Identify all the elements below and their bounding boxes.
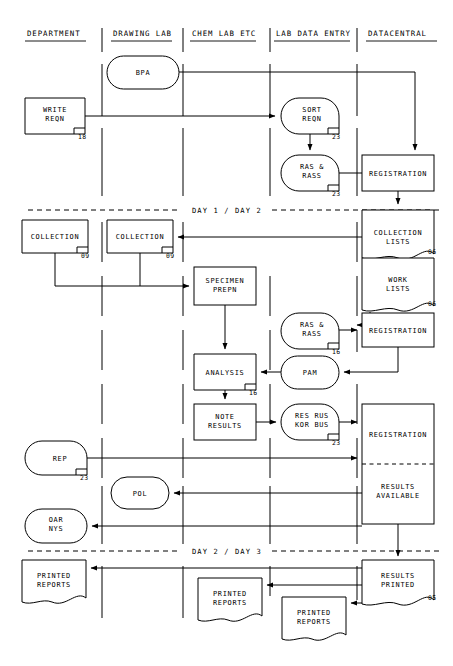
node-printed-reports-1[interactable]: PRINTED REPORTS: [22, 560, 86, 603]
node-specimen-prepn[interactable]: SPECIMEN PREPN: [194, 267, 256, 305]
node-collection-draw[interactable]: COLLECTION 09: [107, 220, 175, 260]
node-label-results-available-1: RESULTS: [381, 483, 415, 491]
node-number-collection-dept: 09: [81, 252, 90, 260]
node-label-sort-reqn-1: SORT: [302, 106, 321, 114]
node-label-collection-lists-1: COLLECTION: [374, 229, 423, 237]
connector-registration-2-to-pam: [344, 347, 398, 372]
node-label-sort-reqn-2: REQN: [302, 115, 321, 123]
node-label-ras-rass-2a: RAS &: [300, 321, 324, 329]
node-res-rus-kor-bus[interactable]: RES RUS KOR BUS 23: [281, 404, 341, 447]
node-number-res-rus: 23: [332, 439, 341, 447]
node-number-collection-lists: 06: [428, 248, 437, 256]
node-collection-lists[interactable]: COLLECTION LISTS 06: [362, 210, 437, 259]
node-label-bpa: BPA: [136, 69, 151, 77]
node-number-ras-rass-1: 23: [332, 190, 341, 198]
node-analysis[interactable]: ANALYSIS 16: [194, 354, 258, 397]
node-label-specimen-prepn-2: PREPN: [213, 286, 237, 294]
node-note-results[interactable]: NOTE RESULTS: [194, 404, 256, 440]
node-label-write-reqn-1: WRITE: [43, 106, 67, 114]
node-work-lists[interactable]: WORK LISTS 06: [362, 258, 437, 311]
node-sort-reqn[interactable]: SORT REQN 23: [281, 98, 341, 141]
node-oar-nys[interactable]: OAR NYS: [25, 509, 87, 543]
node-bpa[interactable]: BPA: [107, 56, 179, 89]
phase-divider-day2-day3: DAY 2 / DAY 3: [28, 547, 443, 556]
lane-title-chem-lab: CHEM LAB ETC: [192, 29, 256, 38]
lane-title-datacentral: DATACENTRAL: [368, 29, 427, 38]
node-results-printed[interactable]: RESULTS PRINTED 05: [362, 560, 437, 605]
node-number-collection-draw: 09: [166, 252, 175, 260]
node-label-registration-2: REGISTRATION: [369, 327, 427, 335]
node-label-note-results-2: RESULTS: [208, 422, 242, 430]
node-rep[interactable]: REP 23: [25, 441, 89, 482]
node-pam[interactable]: PAM: [281, 356, 339, 389]
node-number-sort-reqn: 23: [332, 133, 341, 141]
node-label-oar-nys-1: OAR: [49, 516, 64, 524]
node-label-registration-1: REGISTRATION: [369, 170, 427, 178]
node-label-write-reqn-2: REQN: [45, 115, 64, 123]
node-printed-reports-2[interactable]: PRINTED REPORTS: [198, 578, 262, 621]
node-label-ras-rass-2b: RASS: [302, 330, 321, 338]
lane-header-datacentral: DATACENTRAL: [366, 29, 437, 41]
lane-header-lab-data-entry: LAB DATA ENTRY: [274, 29, 351, 41]
node-label-printed-reports-1b: REPORTS: [37, 581, 71, 589]
node-label-printed-reports-2a: PRINTED: [213, 590, 247, 598]
node-label-rep: REP: [53, 455, 68, 463]
node-label-ras-rass-1a: RAS &: [300, 163, 324, 171]
node-number-write-reqn: 18: [78, 133, 87, 141]
lane-header-chem-lab: CHEM LAB ETC: [190, 29, 256, 41]
node-label-collection-lists-2: LISTS: [386, 238, 410, 246]
node-ras-rass-1[interactable]: RAS & RASS 23: [281, 155, 341, 198]
node-label-work-lists-2: LISTS: [386, 285, 410, 293]
node-label-results-printed-1: RESULTS: [381, 572, 415, 580]
node-label-analysis: ANALYSIS: [206, 369, 245, 377]
node-number-rep: 23: [80, 474, 89, 482]
node-number-analysis: 16: [249, 389, 258, 397]
node-registration-1[interactable]: REGISTRATION: [362, 155, 434, 191]
node-label-ras-rass-1b: RASS: [302, 172, 321, 180]
node-label-results-available-2: AVAILABLE: [376, 492, 420, 500]
node-number-ras-rass-2: 16: [332, 348, 341, 356]
node-label-pam: PAM: [303, 369, 318, 377]
flowchart-canvas: DEPARTMENT DRAWING LAB CHEM LAB ETC LAB …: [0, 0, 453, 666]
node-label-res-rus-2: KOR BUS: [295, 421, 329, 429]
node-registration-2[interactable]: REGISTRATION: [362, 313, 434, 347]
lane-header-drawing-lab: DRAWING LAB: [111, 29, 172, 41]
node-label-note-results-1: NOTE: [215, 413, 234, 421]
lane-title-lab-data-entry: LAB DATA ENTRY: [276, 29, 351, 38]
node-label-registration-3: REGISTRATION: [369, 431, 427, 439]
node-label-oar-nys-2: NYS: [49, 525, 64, 533]
node-label-results-printed-2: PRINTED: [381, 581, 415, 589]
node-label-printed-reports-1a: PRINTED: [37, 572, 71, 580]
node-label-printed-reports-3b: REPORTS: [297, 618, 331, 626]
node-label-printed-reports-2b: REPORTS: [213, 599, 247, 607]
node-printed-reports-3[interactable]: PRINTED REPORTS: [282, 597, 346, 640]
node-pol[interactable]: POL: [111, 477, 169, 509]
node-label-specimen-prepn-1: SPECIMEN: [206, 277, 245, 285]
node-label-res-rus-1: RES RUS: [295, 412, 329, 420]
node-ras-rass-2[interactable]: RAS & RASS 16: [281, 313, 341, 356]
lane-header-department: DEPARTMENT: [25, 29, 86, 41]
node-write-reqn[interactable]: WRITE REQN 18: [25, 98, 87, 141]
node-label-work-lists-1: WORK: [388, 276, 408, 284]
lane-title-drawing-lab: DRAWING LAB: [113, 29, 172, 38]
node-registration-3[interactable]: REGISTRATION RESULTS AVAILABLE: [362, 404, 434, 524]
node-number-results-printed: 05: [428, 594, 437, 602]
phase-label-day1-day2: DAY 1 / DAY 2: [192, 206, 262, 215]
lane-title-department: DEPARTMENT: [27, 29, 81, 38]
node-label-pol: POL: [133, 490, 148, 498]
node-collection-dept[interactable]: COLLECTION 09: [22, 220, 90, 260]
node-label-collection-dept: COLLECTION: [31, 233, 80, 241]
node-label-collection-draw: COLLECTION: [116, 233, 165, 241]
node-number-work-lists: 06: [428, 300, 437, 308]
phase-label-day2-day3: DAY 2 / DAY 3: [192, 547, 262, 556]
node-label-printed-reports-3a: PRINTED: [297, 609, 331, 617]
